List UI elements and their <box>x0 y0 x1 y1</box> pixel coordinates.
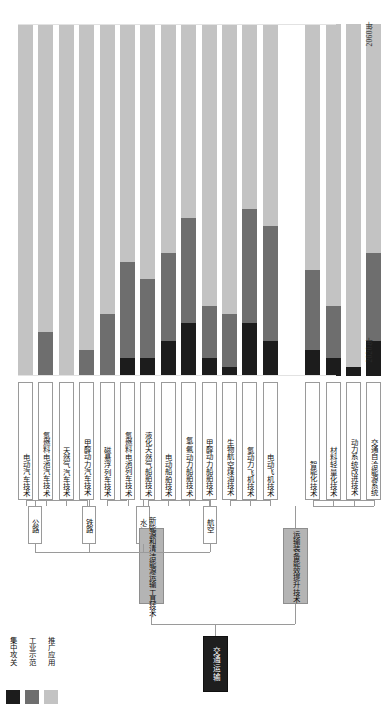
technology-label: 氢动力飞机技术 <box>242 446 257 496</box>
category-box-highway[interactable]: 公路 <box>28 506 42 544</box>
segment-deployment <box>366 24 381 253</box>
connector-stub <box>270 500 271 506</box>
connector-category-down <box>210 544 211 552</box>
technology-label-box[interactable]: 天然气汽车技术 <box>59 382 74 500</box>
group-label: 运输装备能效提升技术 <box>290 530 301 602</box>
bar-3 <box>59 24 74 376</box>
axis-label-year-bottom: 2020年 <box>364 338 375 363</box>
technology-label-box[interactable]: 电动汽车技术 <box>18 382 33 500</box>
segment-deployment <box>222 24 237 314</box>
group-box-equipment-efficiency[interactable]: 运输装备能效提升技术 <box>283 528 308 604</box>
segment-deployment <box>242 24 257 209</box>
technology-label-box[interactable]: 氢/氨动力船舶技术 <box>181 382 196 500</box>
segment-deployment <box>326 24 341 306</box>
bar-11 <box>222 24 237 376</box>
technology-label: 磁悬浮列车技术 <box>100 446 115 496</box>
category-box-aviation[interactable]: 航空 <box>203 506 217 544</box>
segment-focused-rd <box>202 358 217 376</box>
connector-stub <box>189 500 190 506</box>
technology-label-box[interactable]: 氢燃料电池列车技术 <box>120 382 135 500</box>
segment-deployment <box>181 24 196 218</box>
connector-root-bus <box>151 624 295 625</box>
connector-category-down <box>35 544 36 552</box>
segment-deployment <box>305 24 320 270</box>
technology-label-box[interactable]: 交通自洽能源系统 <box>366 382 381 500</box>
category-label: 航空 <box>205 518 216 533</box>
segment-focused-rd <box>326 358 341 376</box>
technology-label-box[interactable]: 氢燃料电池汽车技术 <box>38 382 53 500</box>
segment-demonstration <box>140 279 155 358</box>
connector-to-category <box>35 500 36 506</box>
connector-to-category <box>210 500 211 506</box>
segment-deployment <box>38 24 53 332</box>
connector-to-category <box>143 500 144 506</box>
technology-label: 氢燃料电池列车技术 <box>120 431 135 496</box>
segment-deployment <box>120 24 135 262</box>
technology-label-box[interactable]: 甲醇动力汽车技术 <box>79 382 94 500</box>
segment-focused-rd <box>181 323 196 376</box>
bar-1 <box>18 24 33 376</box>
technology-label-box[interactable]: 甲醇动力船舶技术 <box>202 382 217 500</box>
segment-deployment <box>140 24 155 279</box>
technology-label: 材料轻量化技术 <box>326 446 341 496</box>
axis-label-year-top: 2060年 <box>364 22 375 47</box>
axis-top-rule <box>18 24 336 25</box>
technology-label: 交通自洽能源系统 <box>366 438 381 496</box>
segment-focused-rd <box>305 350 320 376</box>
connector-stub <box>374 500 375 506</box>
segment-demonstration <box>161 253 176 341</box>
segment-deployment <box>263 24 278 226</box>
technology-label-box[interactable]: 动力系统改进技术 <box>346 382 361 500</box>
legend-swatch <box>44 690 58 704</box>
segment-focused-rd <box>242 323 257 376</box>
segment-focused-rd <box>263 341 278 376</box>
segment-demonstration <box>305 270 320 349</box>
connector-stub <box>250 500 251 506</box>
technology-label-box[interactable]: 材料轻量化技术 <box>326 382 341 500</box>
connector-group-bus <box>35 552 210 553</box>
technology-label: 智能化技术 <box>305 460 320 496</box>
connector-to-category <box>89 500 90 506</box>
bar-4 <box>79 24 94 376</box>
technology-label: 氢燃料电池汽车技术 <box>38 431 53 496</box>
segment-deployment <box>79 24 94 350</box>
bar-15 <box>326 24 341 376</box>
connector-category-down <box>89 544 90 552</box>
legend-label: 工业示范 <box>26 636 37 665</box>
technology-label-box[interactable]: 电动飞机技术 <box>263 382 278 500</box>
bar-2 <box>38 24 53 376</box>
bar-17 <box>366 24 381 376</box>
connector-stub <box>148 500 149 506</box>
technology-label-box[interactable]: 电动船舶技术 <box>161 382 176 500</box>
technology-label: 甲醇动力汽车技术 <box>79 438 94 496</box>
technology-label-box[interactable]: 氢动力飞机技术 <box>242 382 257 500</box>
legend-swatch <box>6 690 20 704</box>
category-box-railway[interactable]: 铁路 <box>82 506 96 544</box>
technology-label: 生物航空煤油技术 <box>222 438 237 496</box>
segment-focused-rd <box>120 358 135 376</box>
legend-swatch <box>25 690 39 704</box>
bar-13 <box>263 24 278 376</box>
legend: 集中攻关工业示范推广应用 <box>6 634 68 714</box>
bar-9 <box>181 24 196 376</box>
technology-label: 动力系统改进技术 <box>346 438 361 496</box>
category-label: 公路 <box>30 518 41 533</box>
technology-label: 氢/氨动力船舶技术 <box>181 436 196 496</box>
technology-label-box[interactable]: 磁悬浮列车技术 <box>100 382 115 500</box>
connector-bus-efficiency <box>313 506 374 507</box>
connector-stub <box>168 500 169 506</box>
group-box-new-energy-vehicles[interactable]: 新能源和清洁能源运输工具技术 <box>139 528 164 604</box>
segment-demonstration <box>100 314 115 376</box>
technology-label-box[interactable]: 智能化技术 <box>305 382 320 500</box>
technology-label-box[interactable]: 生物航空煤油技术 <box>222 382 237 500</box>
connector-bus <box>148 500 209 501</box>
technology-label-box[interactable]: 液化天然气船舶技术 <box>140 382 155 500</box>
legend-item: 推广应用 <box>44 634 62 714</box>
technology-label: 液化天然气船舶技术 <box>140 431 155 496</box>
bar-16 <box>346 24 361 376</box>
legend-item: 工业示范 <box>25 634 43 714</box>
segment-demonstration <box>366 253 381 341</box>
root-label: 交通运输 <box>210 647 221 681</box>
segment-focused-rd <box>346 367 361 376</box>
root-box-transportation[interactable]: 交通运输 <box>203 636 228 692</box>
